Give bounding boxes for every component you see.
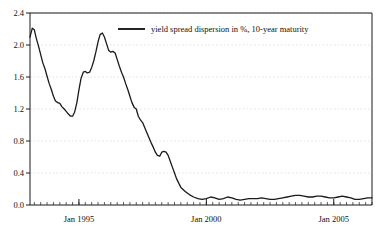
data-series-line xyxy=(30,28,372,200)
x-axis-labels: Jan 1995Jan 2000Jan 2005 xyxy=(64,214,349,224)
x-axis-ticks xyxy=(34,199,372,205)
y-axis-labels: 0.00.40.81.21.62.02.4 xyxy=(13,8,24,210)
chart-figure: 0.00.40.81.21.62.02.4 Jan 1995Jan 2000Ja… xyxy=(0,0,387,230)
line-chart: 0.00.40.81.21.62.02.4 Jan 1995Jan 2000Ja… xyxy=(0,0,387,230)
y-tick-label: 1.2 xyxy=(13,104,24,114)
x-tick-label: Jan 2005 xyxy=(319,214,349,224)
x-tick-label: Jan 1995 xyxy=(64,214,94,224)
y-axis-ticks xyxy=(26,13,30,205)
gridlines xyxy=(30,13,372,173)
y-tick-label: 2.4 xyxy=(13,8,24,18)
legend-label: yield spread dispersion in %, 10-year ma… xyxy=(151,24,309,34)
y-tick-label: 0.0 xyxy=(13,200,24,210)
y-tick-label: 0.4 xyxy=(13,168,24,178)
y-tick-label: 1.6 xyxy=(13,72,24,82)
x-tick-label: Jan 2000 xyxy=(191,214,221,224)
y-tick-label: 2.0 xyxy=(13,40,24,50)
y-tick-label: 0.8 xyxy=(13,136,24,146)
chart-legend: yield spread dispersion in %, 10-year ma… xyxy=(118,24,309,34)
